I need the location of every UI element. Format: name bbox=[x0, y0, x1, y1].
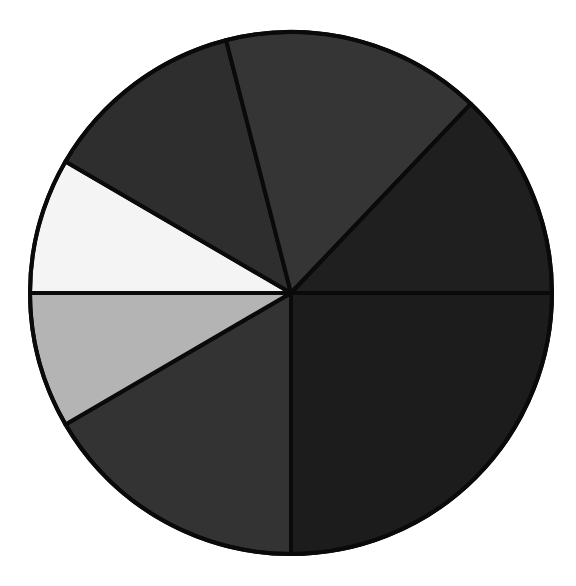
pie-chart bbox=[0, 0, 576, 586]
pie-chart-svg bbox=[0, 0, 576, 586]
pie-slices bbox=[30, 32, 552, 554]
pie-slice-1 bbox=[291, 293, 552, 554]
